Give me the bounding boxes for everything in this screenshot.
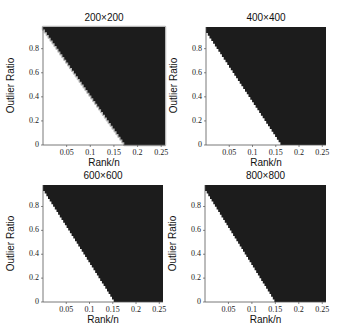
x-axis-label: Rank/n [206, 157, 326, 168]
y-tick-label: 0.6 [181, 225, 201, 234]
y-tick-label: 0.2 [19, 116, 39, 125]
y-tick-label: 0.8 [19, 201, 39, 210]
panel-title: 600×600 [43, 170, 163, 181]
x-axis-label: Rank/n [43, 157, 165, 168]
panel-title: 400×400 [206, 12, 326, 23]
x-tick-label: 0.15 [266, 305, 284, 314]
x-tick-label: 0.15 [267, 148, 285, 157]
panel-title: 200×200 [43, 12, 165, 23]
y-tick-label: 0 [182, 140, 202, 149]
x-tick-label: 0.05 [58, 148, 76, 157]
x-tick-label: 0.2 [127, 305, 145, 314]
y-tick-label: 0.8 [19, 44, 39, 53]
y-tick-label: 0.6 [19, 68, 39, 77]
x-tick-label: 0.15 [105, 148, 123, 157]
x-tick-label: 0.25 [313, 148, 331, 157]
y-tick-label: 0 [181, 297, 201, 306]
y-axis-label: Outlier Ratio [5, 203, 16, 283]
heatmap-plot [43, 27, 165, 145]
y-axis-label: Outlier Ratio [167, 203, 178, 283]
heatmap-plot [206, 27, 326, 145]
x-tick-label: 0.1 [243, 305, 261, 314]
x-axis-label: Rank/n [43, 314, 163, 325]
y-tick-label: 0 [19, 140, 39, 149]
x-tick-label: 0.1 [81, 305, 99, 314]
y-axis-label: Outlier Ratio [5, 46, 16, 126]
x-tick-label: 0.1 [244, 148, 262, 157]
x-tick-label: 0.1 [81, 148, 99, 157]
x-tick-label: 0.05 [219, 305, 237, 314]
x-tick-label: 0.05 [57, 305, 75, 314]
y-tick-label: 0.2 [181, 273, 201, 282]
panel-title: 800×800 [205, 170, 326, 181]
y-tick-label: 0.4 [19, 249, 39, 258]
y-tick-label: 0 [19, 297, 39, 306]
x-tick-label: 0.2 [290, 148, 308, 157]
heatmap-plot [43, 185, 163, 302]
y-tick-label: 0.2 [182, 116, 202, 125]
y-tick-label: 0.6 [19, 225, 39, 234]
y-tick-label: 0.2 [19, 273, 39, 282]
x-tick-label: 0.25 [152, 148, 170, 157]
y-tick-label: 0.8 [182, 44, 202, 53]
y-tick-label: 0.8 [181, 201, 201, 210]
heatmap-plot [205, 185, 326, 302]
x-tick-label: 0.15 [104, 305, 122, 314]
y-tick-label: 0.4 [19, 92, 39, 101]
x-tick-label: 0.2 [129, 148, 147, 157]
y-tick-label: 0.4 [182, 92, 202, 101]
x-tick-label: 0.05 [220, 148, 238, 157]
y-tick-label: 0.4 [181, 249, 201, 258]
y-axis-label: Outlier Ratio [168, 46, 179, 126]
y-tick-label: 0.6 [182, 68, 202, 77]
x-axis-label: Rank/n [205, 314, 326, 325]
x-tick-label: 0.25 [313, 305, 331, 314]
x-tick-label: 0.2 [290, 305, 308, 314]
x-tick-label: 0.25 [150, 305, 168, 314]
